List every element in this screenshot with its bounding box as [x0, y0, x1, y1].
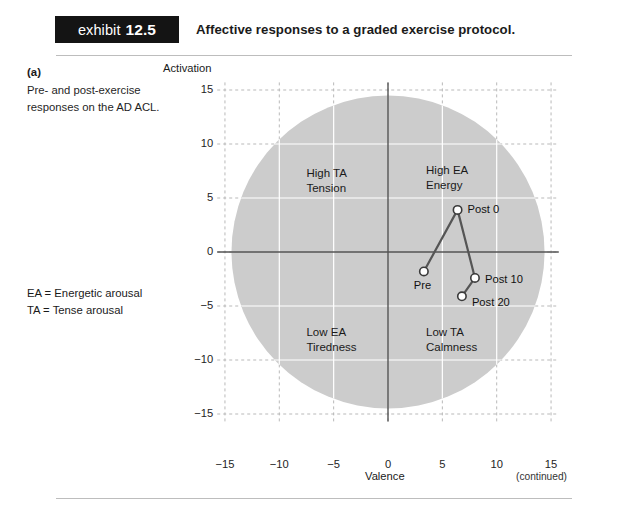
x-tick-label: 15	[531, 458, 571, 470]
y-tick-label: 5	[173, 191, 213, 203]
quadrant-label-high-ea: High EA Energy	[426, 163, 468, 193]
quadrant-label-high-ta: High TA Tension	[306, 166, 346, 196]
x-tick-label: 0	[368, 458, 408, 470]
continued-note: (continued)	[516, 471, 567, 482]
y-tick-label: 0	[173, 245, 213, 257]
quadrant-label-low-ea: Low EA Tiredness	[306, 325, 356, 355]
plot-canvas	[0, 0, 626, 528]
x-tick-label: 10	[477, 458, 517, 470]
data-point-label: Post 20	[472, 296, 510, 308]
x-tick-label: −5	[314, 458, 354, 470]
y-tick-label: −15	[173, 407, 213, 419]
y-tick-label: 10	[173, 137, 213, 149]
x-tick-label: −15	[205, 458, 245, 470]
scatter-chart: Activation Valence 151050−5−10−15 −15−10…	[0, 0, 626, 528]
y-tick-label: −10	[173, 353, 213, 365]
axis-lines	[217, 82, 559, 421]
y-tick-label: −5	[173, 299, 213, 311]
x-tick-label: 5	[422, 458, 462, 470]
data-point-label: Pre	[414, 279, 431, 291]
y-tick-label: 15	[173, 83, 213, 95]
x-tick-label: −10	[259, 458, 299, 470]
data-point-label: Post 0	[468, 203, 500, 215]
footer-divider	[56, 498, 572, 499]
data-point-label: Post 10	[485, 273, 523, 285]
quadrant-label-low-ta: Low TA Calmness	[426, 325, 477, 355]
